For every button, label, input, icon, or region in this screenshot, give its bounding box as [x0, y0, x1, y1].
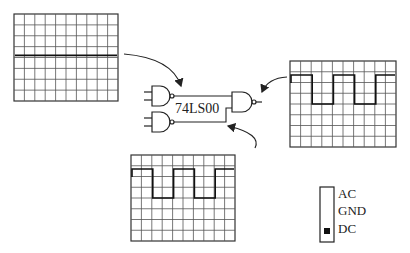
output-scope [290, 61, 396, 147]
switch-indicator [324, 228, 330, 234]
chip-label: 74LS00 [175, 101, 219, 116]
nand-gate-3 [232, 92, 262, 112]
coupling-switch[interactable]: AC GND DC [320, 186, 366, 242]
logic-gate-oscilloscope-diagram: 74LS00 AC GND DC [0, 0, 410, 253]
input-a-scope [14, 14, 118, 101]
switch-option-ac[interactable]: AC [338, 186, 356, 201]
nand-gate-1 [144, 86, 174, 106]
switch-option-gnd[interactable]: GND [338, 203, 366, 218]
input-b-scope [131, 155, 235, 241]
nand-gate-2 [144, 112, 174, 132]
switch-option-dc[interactable]: DC [338, 221, 356, 236]
